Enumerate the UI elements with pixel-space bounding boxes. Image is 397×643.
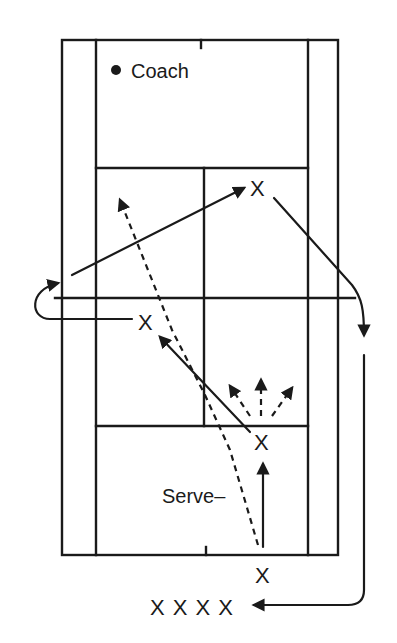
net-player-loop-arrow-icon	[35, 283, 132, 319]
tennis-drill-diagram: Coach X X X X X X X X Serve–	[0, 0, 397, 643]
player-net: X	[138, 310, 153, 335]
player-server-forward: X	[254, 430, 269, 455]
fan-arrow-left-icon	[230, 386, 250, 416]
court	[55, 40, 355, 555]
cross-to-far-arrow-icon	[72, 188, 244, 275]
serve-label: Serve–	[162, 485, 226, 507]
player-queue: X X X X	[150, 595, 234, 620]
coach-dot-icon	[111, 65, 121, 75]
player-server-baseline: X	[255, 563, 270, 588]
movement-paths	[35, 188, 364, 605]
far-player-exit-arrow-icon	[274, 198, 364, 335]
fan-arrow-right-icon	[272, 388, 292, 416]
player-far: X	[250, 176, 265, 201]
coach-label: Coach	[131, 60, 189, 82]
coach-marker: Coach	[111, 60, 189, 82]
